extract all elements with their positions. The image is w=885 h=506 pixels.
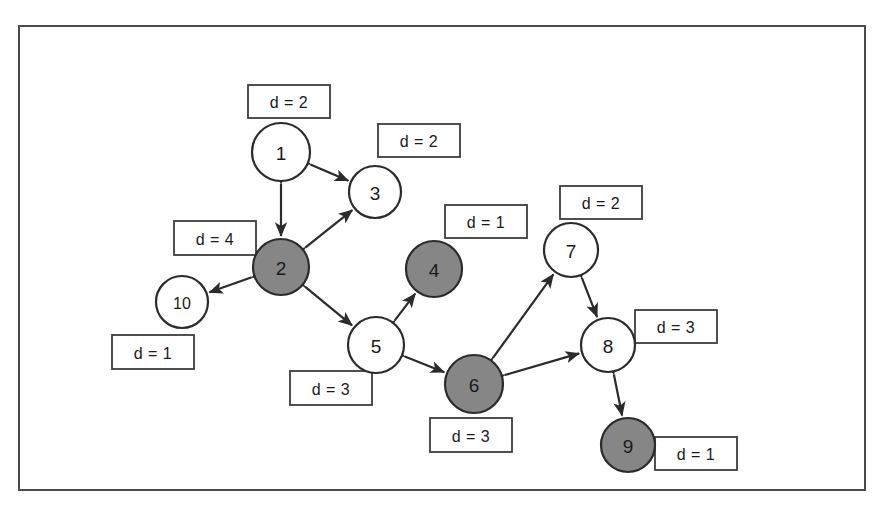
edge-6-8 xyxy=(505,353,579,375)
edge-6-7 xyxy=(493,274,554,358)
degree-box-label: d = 4 xyxy=(196,231,235,248)
node-label-10: 10 xyxy=(173,295,191,312)
graph-node-2[interactable]: 2 xyxy=(253,239,309,295)
degree-box-node-1: d = 2 xyxy=(248,85,330,118)
degree-box-node-3: d = 2 xyxy=(378,124,460,157)
edge-8-9 xyxy=(614,374,622,415)
graph-node-7[interactable]: 7 xyxy=(544,223,598,277)
degree-box-label: d = 1 xyxy=(467,214,506,231)
degree-box-node-10: d = 1 xyxy=(112,335,194,369)
graph-node-6[interactable]: 6 xyxy=(445,355,503,413)
edge-5-4 xyxy=(395,294,415,321)
graph-node-4[interactable]: 4 xyxy=(406,241,462,297)
edge-2-10 xyxy=(209,277,251,292)
degree-box-label: d = 3 xyxy=(657,319,696,336)
degree-box-node-9: d = 1 xyxy=(655,437,737,470)
node-label-7: 7 xyxy=(566,241,577,262)
degree-box-label: d = 2 xyxy=(582,195,621,212)
edge-7-8 xyxy=(582,278,597,317)
edge-2-3 xyxy=(305,210,352,248)
node-label-5: 5 xyxy=(371,336,382,357)
graph-node-3[interactable]: 3 xyxy=(349,166,401,218)
node-label-9: 9 xyxy=(623,436,634,457)
diagram-canvas: d = 2d = 4d = 2d = 1d = 3d = 3d = 2d = 3… xyxy=(0,0,885,506)
edge-1-3 xyxy=(310,165,348,181)
graph-node-8[interactable]: 8 xyxy=(581,318,635,372)
degree-box-label: d = 3 xyxy=(312,381,351,398)
node-label-4: 4 xyxy=(429,260,440,281)
degree-box-node-7: d = 2 xyxy=(560,186,642,219)
graph-svg: d = 2d = 4d = 2d = 1d = 3d = 3d = 2d = 3… xyxy=(0,0,885,506)
degree-box-node-8: d = 3 xyxy=(635,310,717,343)
degree-box-label: d = 1 xyxy=(134,345,173,362)
degree-box-node-2: d = 4 xyxy=(174,221,256,255)
degree-box-node-5: d = 3 xyxy=(290,371,372,405)
node-label-1: 1 xyxy=(276,143,287,164)
edge-5-6 xyxy=(405,356,444,372)
node-label-3: 3 xyxy=(370,183,381,204)
degree-box-node-6: d = 3 xyxy=(430,418,512,452)
degree-box-label: d = 2 xyxy=(400,133,439,150)
node-label-6: 6 xyxy=(469,375,480,396)
degree-box-node-4: d = 1 xyxy=(445,205,527,238)
graph-node-10[interactable]: 10 xyxy=(156,276,208,328)
node-label-8: 8 xyxy=(603,336,614,357)
degree-box-label: d = 2 xyxy=(270,94,309,111)
degree-box-label: d = 1 xyxy=(677,446,716,463)
graph-node-1[interactable]: 1 xyxy=(252,123,310,181)
degree-box-label: d = 3 xyxy=(452,428,491,445)
nodes-layer: 12345678910 xyxy=(156,123,655,472)
graph-node-5[interactable]: 5 xyxy=(348,317,404,373)
graph-node-9[interactable]: 9 xyxy=(601,418,655,472)
edge-2-5 xyxy=(305,287,352,326)
node-label-2: 2 xyxy=(276,258,287,279)
